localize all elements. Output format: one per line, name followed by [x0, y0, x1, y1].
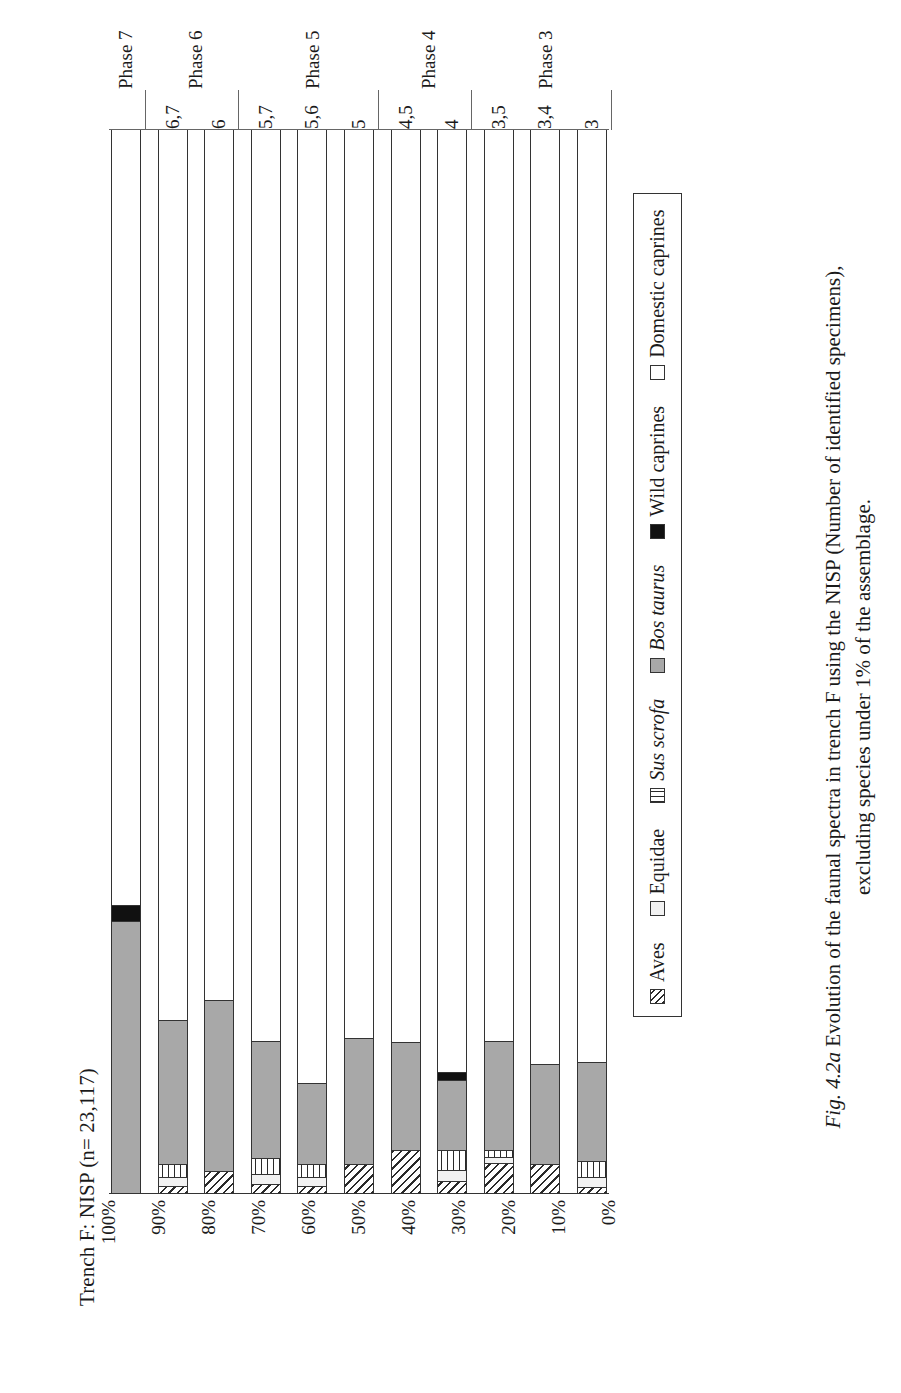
value-axis-tick: 10% — [548, 1200, 570, 1235]
bar-segment — [298, 1185, 326, 1192]
stacked-bar[interactable] — [483, 129, 513, 1194]
figure-container: Trench F: NISP (n= 23,117) 100%90%80%70%… — [0, 0, 901, 1393]
legend-swatch-icon — [650, 901, 665, 916]
phase-group-label: Phase 4 — [418, 30, 440, 89]
bar-segment — [438, 1080, 466, 1150]
bar-segment — [577, 1186, 605, 1192]
bar-segment — [484, 1149, 512, 1156]
bar-row — [248, 129, 282, 1194]
stacked-bar[interactable] — [111, 129, 141, 1194]
bar-row — [574, 129, 608, 1194]
bar-segment — [112, 921, 140, 1193]
legend-item[interactable]: Sus scrofa — [646, 698, 669, 802]
bar-segment — [391, 130, 419, 1042]
bar-row — [435, 129, 469, 1194]
legend-swatch-icon — [650, 989, 665, 1004]
phase-group-label: Phase 6 — [185, 30, 207, 89]
bar-row — [341, 129, 375, 1194]
bar-row — [481, 129, 515, 1194]
legend-item[interactable]: Equidae — [646, 828, 669, 916]
figure-caption: Fig. 4.2a Evolution of the faunal spectr… — [805, 0, 893, 1393]
value-axis-tick: 100% — [98, 1200, 120, 1244]
phase-group-separator — [471, 90, 472, 130]
group-axis-line — [109, 129, 609, 130]
value-axis-tick: 50% — [348, 1200, 370, 1235]
bar-segment — [531, 130, 559, 1064]
bar-segment — [205, 1170, 233, 1192]
legend-item[interactable]: Aves — [646, 942, 669, 1004]
legend-item[interactable]: Bos taurus — [646, 564, 669, 672]
bar-row — [388, 129, 422, 1194]
phase-group-axis: Phase 3Phase 4Phase 5Phase 6Phase 7 — [109, 9, 609, 129]
stacked-bar[interactable] — [204, 129, 234, 1194]
stacked-bar[interactable] — [157, 129, 187, 1194]
bar-segment — [158, 1185, 186, 1192]
bar-segment — [531, 1164, 559, 1193]
bar-segment — [251, 1158, 279, 1174]
bar-segment — [577, 1177, 605, 1186]
bar-row — [109, 129, 143, 1194]
stacked-bar[interactable] — [576, 129, 606, 1194]
legend-item[interactable]: Domestic caprines — [646, 209, 669, 379]
value-axis-tick: 60% — [298, 1200, 320, 1235]
legend-item-label: Wild caprines — [646, 405, 669, 516]
chart-area: Trench F: NISP (n= 23,117) 100%90%80%70%… — [73, 82, 733, 1312]
bar-segment — [391, 1149, 419, 1192]
bar-segment — [531, 1063, 559, 1164]
bar-segment — [344, 1164, 372, 1193]
value-axis-tick: 40% — [398, 1200, 420, 1235]
legend-item-label: Equidae — [646, 828, 669, 894]
value-axis-tick: 90% — [148, 1200, 170, 1235]
bar-series-container — [109, 129, 609, 1194]
bar-segment — [484, 130, 512, 1041]
legend-item-label: Aves — [646, 942, 669, 982]
value-axis: 100%90%80%70%60%50%40%30%20%10%0% — [109, 1196, 609, 1256]
value-axis-tick: 70% — [248, 1200, 270, 1235]
bar-segment — [577, 1161, 605, 1177]
value-axis-tick: 80% — [198, 1200, 220, 1235]
bar-segment — [344, 1038, 372, 1164]
phase-group-separator — [238, 90, 239, 130]
legend-item[interactable]: Wild caprines — [646, 405, 669, 538]
phase-group-label: Phase 7 — [115, 30, 137, 89]
bar-segment — [577, 1061, 605, 1160]
bar-segment — [391, 1042, 419, 1149]
legend-item-label: Bos taurus — [646, 564, 669, 650]
bar-segment — [158, 130, 186, 1020]
bar-segment — [438, 130, 466, 1072]
bar-segment — [438, 1181, 466, 1193]
stacked-bar[interactable] — [390, 129, 420, 1194]
chart-legend: AvesEquidaeSus scrofaBos taurusWild capr… — [633, 192, 682, 1016]
caption-line-2: excluding species under 1% of the assemb… — [851, 499, 875, 895]
bar-segment — [251, 1040, 279, 1157]
stacked-bar[interactable] — [530, 129, 560, 1194]
stacked-bar[interactable] — [437, 129, 467, 1194]
bar-segment — [205, 130, 233, 1000]
bar-segment — [577, 130, 605, 1062]
value-axis-tick: 30% — [448, 1200, 470, 1235]
legend-swatch-icon — [650, 657, 665, 672]
bar-segment — [158, 1019, 186, 1163]
chart-title: Trench F: NISP (n= 23,117) — [75, 1068, 100, 1306]
stacked-bar[interactable] — [343, 129, 373, 1194]
legend-item-label: Domestic caprines — [646, 209, 669, 357]
stacked-bar[interactable] — [297, 129, 327, 1194]
bar-segment — [484, 1157, 512, 1163]
legend-swatch-icon — [650, 523, 665, 538]
stacked-bar[interactable] — [250, 129, 280, 1194]
legend-item-label: Sus scrofa — [646, 698, 669, 780]
phase-group-label: Phase 5 — [301, 30, 323, 89]
bar-segment — [112, 904, 140, 921]
bar-segment — [298, 1163, 326, 1177]
bar-segment — [205, 1000, 233, 1171]
bar-segment — [484, 1163, 512, 1193]
bar-row — [528, 129, 562, 1194]
bar-segment — [158, 1177, 186, 1185]
bar-segment — [112, 130, 140, 905]
bar-segment — [251, 1183, 279, 1192]
bar-segment — [484, 1040, 512, 1149]
bar-segment — [438, 1071, 466, 1079]
bar-segment — [251, 130, 279, 1041]
bar-row — [155, 129, 189, 1194]
value-axis-tick: 0% — [598, 1200, 620, 1225]
